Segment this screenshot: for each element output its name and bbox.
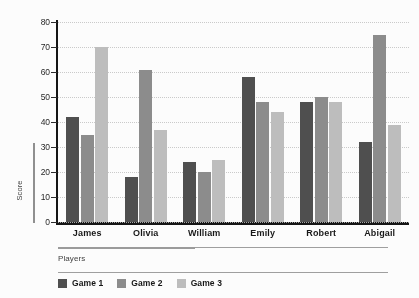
y-tick-mark — [51, 197, 57, 198]
bar — [256, 102, 269, 222]
y-tick-label: 50 — [28, 92, 50, 102]
x-tick-label: James — [58, 228, 117, 238]
bar-group — [292, 22, 351, 222]
y-tick-mark — [51, 97, 57, 98]
x-tick-label: Abigail — [351, 228, 410, 238]
x-tick-label: Olivia — [117, 228, 176, 238]
bar — [300, 102, 313, 222]
y-tick-mark — [51, 22, 57, 23]
category-group-underline — [58, 247, 195, 249]
legend-rule — [58, 272, 388, 273]
x-axis-category-labels: JamesOliviaWilliamEmilyRobertAbigail — [58, 228, 409, 244]
bar — [139, 70, 152, 223]
y-tick-mark — [51, 222, 57, 223]
bar-group — [234, 22, 293, 222]
bar — [388, 125, 401, 223]
bar — [329, 102, 342, 222]
y-tick-label: 60 — [28, 67, 50, 77]
y-tick-mark — [51, 72, 57, 73]
bar — [212, 160, 225, 223]
chart-legend: Game 1Game 2Game 3 — [58, 278, 222, 288]
plot-area — [58, 22, 409, 222]
y-tick-mark — [51, 122, 57, 123]
legend-swatch — [58, 279, 67, 288]
x-tick-label: William — [175, 228, 234, 238]
legend-label: Game 2 — [131, 278, 162, 288]
y-tick-label: 30 — [28, 142, 50, 152]
legend-swatch — [117, 279, 126, 288]
legend-label: Game 1 — [72, 278, 103, 288]
x-axis-title: Players — [58, 254, 85, 263]
legend-item: Game 1 — [58, 278, 103, 288]
y-tick-label: 40 — [28, 117, 50, 127]
bar — [271, 112, 284, 222]
y-tick-label: 0 — [28, 217, 50, 227]
bar-group — [351, 22, 410, 222]
y-tick-label: 20 — [28, 167, 50, 177]
x-tick-label: Emily — [234, 228, 293, 238]
legend-item: Game 2 — [117, 278, 162, 288]
gridline — [58, 222, 409, 223]
bar — [66, 117, 79, 222]
bar-chart-figure: Score 01020304050607080 JamesOliviaWilli… — [0, 0, 419, 298]
bar-group — [58, 22, 117, 222]
y-axis-ticks: 01020304050607080 — [22, 0, 50, 298]
bar — [373, 35, 386, 223]
x-tick-label: Robert — [292, 228, 351, 238]
bar — [154, 130, 167, 223]
bar — [242, 77, 255, 222]
bar — [81, 135, 94, 223]
bar — [198, 172, 211, 222]
bar — [315, 97, 328, 222]
bar-group — [117, 22, 176, 222]
bar-group — [175, 22, 234, 222]
legend-label: Game 3 — [191, 278, 222, 288]
legend-item: Game 3 — [177, 278, 222, 288]
bar — [125, 177, 138, 222]
y-tick-label: 70 — [28, 42, 50, 52]
y-tick-label: 10 — [28, 192, 50, 202]
y-tick-mark — [51, 147, 57, 148]
y-tick-label: 80 — [28, 17, 50, 27]
bar — [95, 47, 108, 222]
y-tick-mark — [51, 172, 57, 173]
legend-swatch — [177, 279, 186, 288]
y-tick-mark — [51, 47, 57, 48]
bar — [359, 142, 372, 222]
bar — [183, 162, 196, 222]
